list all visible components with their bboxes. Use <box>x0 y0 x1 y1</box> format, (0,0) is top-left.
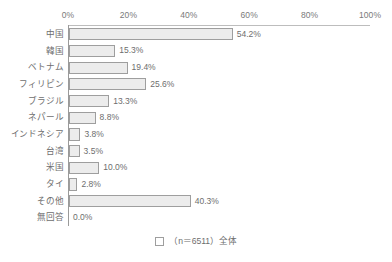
bar-value-label: 54.2% <box>237 29 261 40</box>
bar-track: 8.8% <box>69 112 371 124</box>
bar-chart: 0%20%40%60%80%100% 中国54.2%韓国15.3%ベトナム19.… <box>0 0 392 262</box>
plot-area: 0%20%40%60%80%100% 中国54.2%韓国15.3%ベトナム19.… <box>0 0 392 262</box>
chart-legend: （n＝6511）全体 <box>0 236 392 247</box>
bar-track: 15.3% <box>69 45 371 57</box>
bar-track: 2.8% <box>69 178 371 190</box>
bar <box>69 145 80 157</box>
category-label: 米国 <box>0 162 64 173</box>
bar-value-label: 0.0% <box>73 212 92 223</box>
bar-rows: 中国54.2%韓国15.3%ベトナム19.4%フィリピン25.6%ブラジル13.… <box>0 26 392 226</box>
bar <box>69 178 77 190</box>
bar-row: ブラジル13.3% <box>0 93 392 110</box>
bar-value-label: 19.4% <box>132 62 156 73</box>
bar-value-label: 15.3% <box>119 45 143 56</box>
bar-row: インドネシア3.8% <box>0 126 392 143</box>
bar <box>69 162 99 174</box>
bar-track: 3.8% <box>69 128 371 140</box>
x-tick-label: 0% <box>62 10 75 21</box>
bar-value-label: 3.8% <box>84 129 103 140</box>
bar-row: 無回答0.0% <box>0 210 392 227</box>
bar-row: 中国54.2% <box>0 26 392 43</box>
bar-track: 54.2% <box>69 28 371 40</box>
bar-value-label: 2.8% <box>81 179 100 190</box>
category-label: 韓国 <box>0 46 64 57</box>
bar <box>69 128 80 140</box>
bar-track: 3.5% <box>69 145 371 157</box>
bar <box>69 62 128 74</box>
legend-label: （n＝6511）全体 <box>169 236 236 247</box>
bar <box>69 112 96 124</box>
bar-value-label: 13.3% <box>113 96 137 107</box>
bar-value-label: 10.0% <box>103 162 127 173</box>
legend-swatch-icon <box>155 237 164 246</box>
bar-value-label: 8.8% <box>100 112 119 123</box>
category-label: 中国 <box>0 29 64 40</box>
bar-row: 韓国15.3% <box>0 43 392 60</box>
bar-track: 19.4% <box>69 62 371 74</box>
bar-value-label: 40.3% <box>195 196 219 207</box>
bar-track: 10.0% <box>69 162 371 174</box>
bar-row: 米国10.0% <box>0 160 392 177</box>
category-label: インドネシア <box>0 129 64 140</box>
bar-row: ベトナム19.4% <box>0 59 392 76</box>
bar <box>69 95 109 107</box>
x-tick-label: 60% <box>241 10 258 21</box>
legend-item: （n＝6511）全体 <box>155 236 236 247</box>
bar-row: フィリピン25.6% <box>0 76 392 93</box>
x-tick-label: 20% <box>120 10 137 21</box>
category-label: その他 <box>0 196 64 207</box>
bar-value-label: 25.6% <box>150 79 174 90</box>
bar-row: その他40.3% <box>0 193 392 210</box>
bar-track: 13.3% <box>69 95 371 107</box>
category-label: ブラジル <box>0 96 64 107</box>
category-label: ベトナム <box>0 62 64 73</box>
bar <box>69 195 191 207</box>
bar-value-label: 3.5% <box>84 146 103 157</box>
bar <box>69 45 115 57</box>
bar-row: ネパール8.8% <box>0 109 392 126</box>
x-tick-label: 100% <box>359 10 381 21</box>
x-axis-tick-labels: 0%20%40%60%80%100% <box>0 10 392 22</box>
bar-row: 台湾3.5% <box>0 143 392 160</box>
category-label: タイ <box>0 179 64 190</box>
x-tick-label: 80% <box>301 10 318 21</box>
category-label: フィリピン <box>0 79 64 90</box>
bar-track: 0.0% <box>69 212 371 224</box>
bar <box>69 28 233 40</box>
x-tick-label: 40% <box>180 10 197 21</box>
bar <box>69 78 146 90</box>
category-label: 無回答 <box>0 212 64 223</box>
bar-track: 40.3% <box>69 195 371 207</box>
category-label: ネパール <box>0 112 64 123</box>
bar-track: 25.6% <box>69 78 371 90</box>
category-label: 台湾 <box>0 146 64 157</box>
bar-row: タイ2.8% <box>0 176 392 193</box>
